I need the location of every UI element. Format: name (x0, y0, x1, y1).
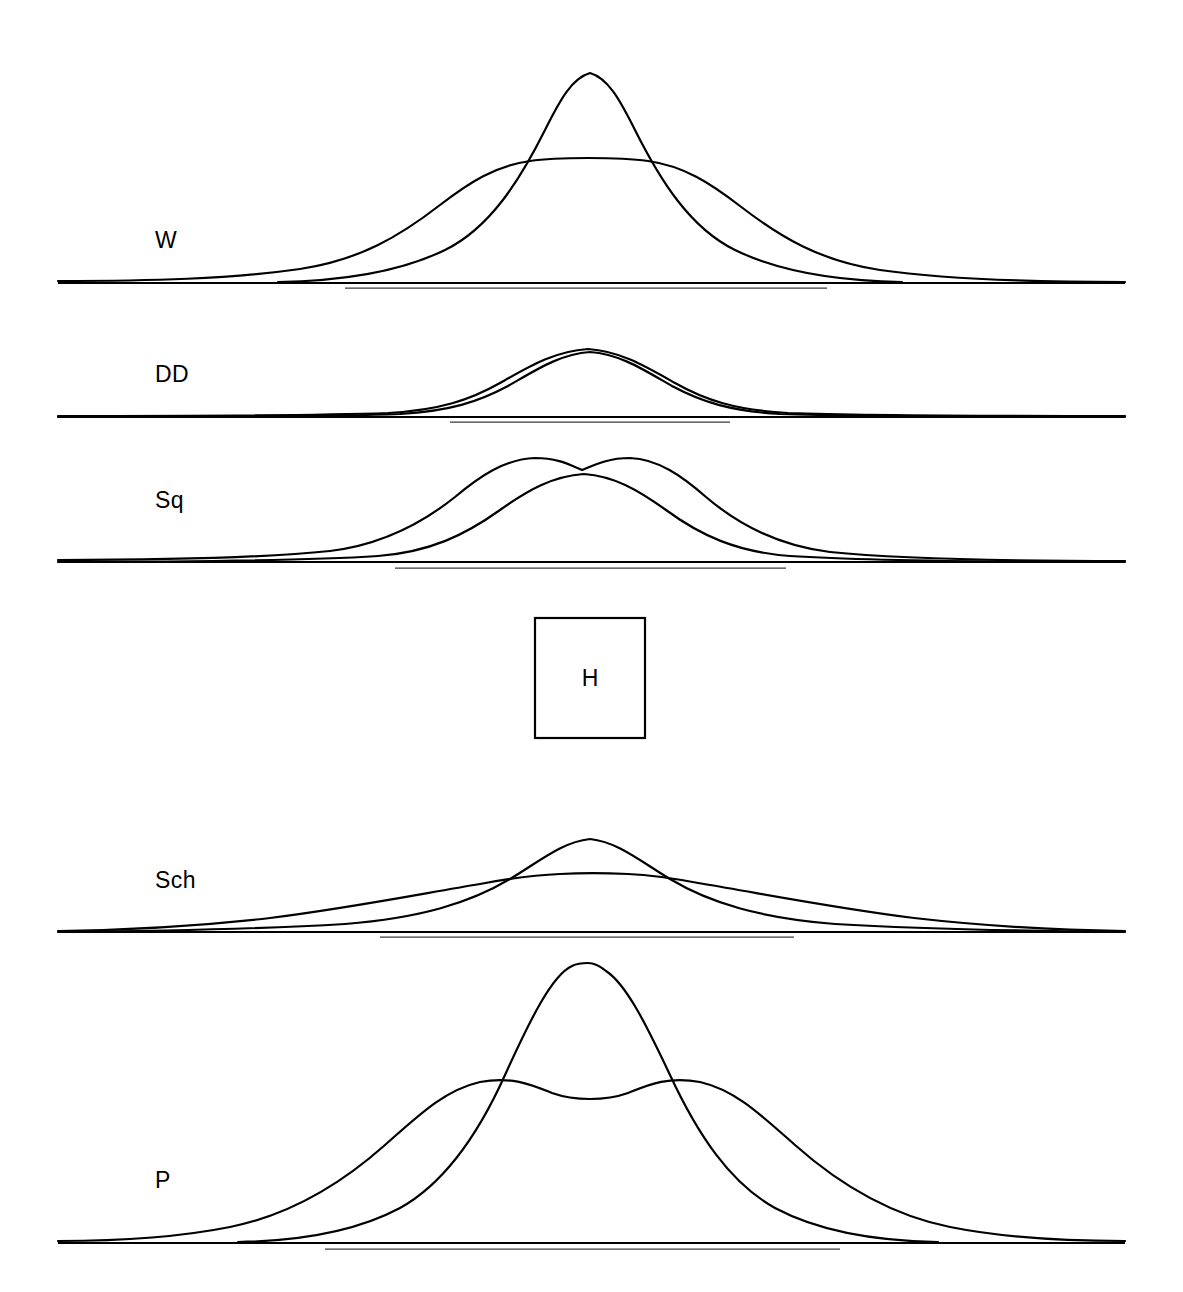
center-box-h: H (535, 618, 645, 738)
panel-label-sch: Sch (155, 867, 196, 893)
panel-sch: Sch (58, 839, 1125, 937)
panel-dd: DD (58, 349, 1125, 422)
curve-p-bimodal-broad (58, 1080, 1125, 1241)
curve-sch-narrow-peak (58, 839, 1125, 932)
curve-dd-bell-outer (58, 349, 1125, 416)
panel-sq: Sq (58, 458, 1125, 568)
h-box-label: H (582, 665, 599, 691)
panel-label-sq: Sq (155, 487, 184, 513)
curve-p-tall-narrow-peak (238, 963, 938, 1242)
curve-dd-bell-inner (58, 352, 1125, 417)
panel-label-p: P (155, 1167, 171, 1193)
distribution-figure: W DD Sq H Sc (0, 0, 1183, 1292)
curve-sq-bimodal (58, 458, 1125, 561)
curve-sch-broad-plateau (58, 873, 1125, 931)
curve-sq-rounded-broad (58, 474, 1125, 562)
curve-w-broad-plateau (58, 158, 1125, 282)
panel-p: P (58, 963, 1125, 1249)
figure-root: W DD Sq H Sc (0, 0, 1183, 1292)
curve-w-narrow-peak (278, 73, 902, 282)
panel-label-w: W (155, 227, 177, 253)
panel-w: W (58, 73, 1125, 288)
panel-label-dd: DD (155, 361, 189, 387)
